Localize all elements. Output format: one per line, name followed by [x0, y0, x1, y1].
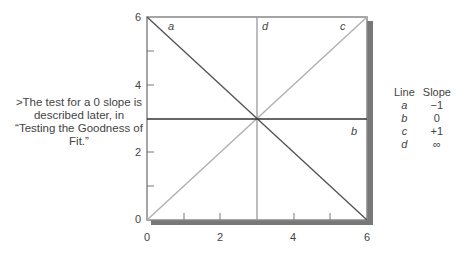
legend-header-slope: Slope [419, 86, 455, 99]
legend-header-line: Line [390, 86, 419, 99]
slope-legend: Line Slope a −1 b 0 c +1 d ∞ [390, 86, 455, 151]
x-tick-2: 2 [217, 231, 223, 243]
legend-row: a −1 [390, 99, 455, 112]
frame-shadow-right [367, 21, 373, 225]
x-tick-0: 0 [144, 231, 150, 243]
legend-row: b 0 [390, 112, 455, 125]
y-tick-2: 2 [135, 146, 141, 158]
x-tick-6: 6 [364, 231, 370, 243]
label-d: d [262, 20, 269, 32]
x-tick-4: 4 [290, 231, 296, 243]
label-b: b [351, 125, 357, 137]
label-c: c [340, 20, 346, 32]
legend-row: c +1 [390, 125, 455, 138]
legend-row: d ∞ [390, 138, 455, 151]
label-a: a [168, 20, 174, 32]
y-tick-0: 0 [135, 213, 141, 225]
y-tick-4: 4 [135, 79, 141, 91]
y-tick-6: 6 [135, 11, 141, 23]
